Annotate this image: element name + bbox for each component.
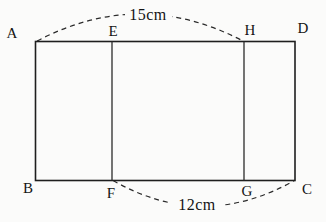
vertex-label-c: C [302, 181, 312, 197]
vertex-label-g: G [242, 183, 253, 199]
vertex-label-e: E [108, 23, 117, 39]
vertex-label-h: H [245, 22, 256, 38]
geometry-figure: 15cm 12cm A E H D B F G C [0, 0, 326, 222]
vertex-label-f: F [107, 185, 115, 201]
vertex-label-a: A [7, 25, 18, 41]
vertex-label-b: B [23, 180, 33, 196]
measurement-label-top: 15cm [129, 6, 167, 23]
measurement-label-bottom: 12cm [178, 196, 216, 213]
rectangle-fold-diagram: 15cm 12cm A E H D B F G C [0, 0, 326, 222]
vertex-label-d: D [298, 20, 309, 36]
rectangle-outline [36, 42, 296, 181]
